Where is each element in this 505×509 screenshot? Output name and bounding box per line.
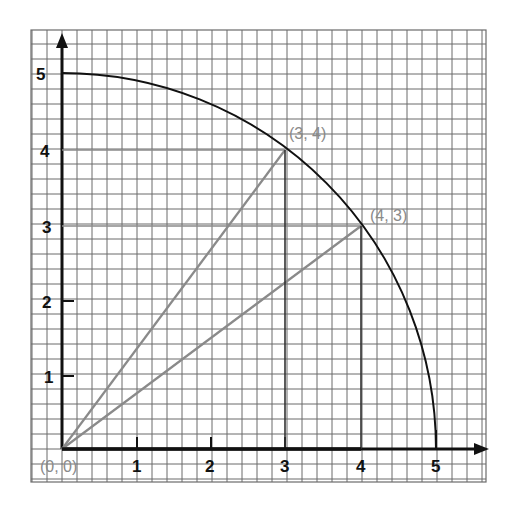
origin-label: (0, 0) bbox=[40, 458, 77, 475]
y-label-4: 4 bbox=[40, 142, 50, 161]
y-label-1: 1 bbox=[44, 368, 53, 387]
y-label-3: 3 bbox=[42, 218, 51, 237]
x-label-3: 3 bbox=[280, 457, 289, 476]
x-label-4: 4 bbox=[356, 457, 366, 476]
y-ticks bbox=[62, 301, 74, 376]
x-label-2: 2 bbox=[205, 457, 214, 476]
y-label-2: 2 bbox=[42, 293, 51, 312]
y-label-5: 5 bbox=[36, 65, 45, 84]
diagram-canvas: 5 4 3 2 1 1 2 3 4 5 (0, 0) (3, 4) (4, 3) bbox=[0, 0, 505, 509]
grid-paper bbox=[31, 30, 486, 482]
x-label-1: 1 bbox=[132, 457, 141, 476]
y-axis-arrow-icon bbox=[56, 33, 68, 48]
x-ticks bbox=[137, 437, 285, 449]
point-label-4-3: (4, 3) bbox=[370, 207, 407, 224]
point-label-3-4: (3, 4) bbox=[289, 125, 326, 142]
quarter-circle-arc bbox=[62, 73, 436, 449]
x-label-5: 5 bbox=[431, 457, 440, 476]
